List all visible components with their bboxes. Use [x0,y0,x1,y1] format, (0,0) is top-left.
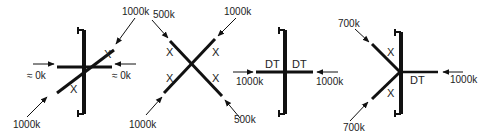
arrow-top-left [152,20,168,38]
input-label-bottom-left: 1000k [13,119,41,130]
arrow-bottom-left [146,97,162,115]
input-label-top-right: 1000k [224,6,252,17]
segment-label-upper: X [387,46,395,58]
segment-label-top-left: X [166,46,174,58]
arrow-bottom-left [27,97,47,117]
diagonal-segment-upper [372,44,400,72]
diagram-stage: 1000k 1000k ≈ 0k ≈ 0k X X 500k 1000k 100… [0,0,488,136]
input-label-bottom-left: 1000k [129,119,157,130]
input-label-left: 1000k [236,76,264,87]
segment-label-right: DT [292,58,307,70]
input-label-bottom-right: 500k [234,114,257,125]
panel-4: 700k 700k 1000k X X DT [338,18,478,133]
segment-label-bottom-left: X [166,72,174,84]
segment-label-left: DT [265,58,280,70]
arrow-top-left [355,29,369,42]
segment-label-upper: X [104,48,112,60]
arrow-top-right [116,18,135,44]
panel-1: 1000k 1000k ≈ 0k ≈ 0k X X [13,6,150,130]
input-label-right: ≈ 0k [112,70,132,81]
segment-label-lower: X [70,83,78,95]
panel-2: 500k 1000k 1000k 500k X X X X [129,6,257,130]
diagonal-segment-lower [372,72,400,99]
segment-label-lower: X [387,87,395,99]
segment-label-bottom-right: X [212,72,220,84]
input-label-right: 1000k [450,74,478,85]
panel-3: 1000k 1000k DT DT [233,27,344,117]
segment-label-right: DT [410,74,425,86]
arrow-top-right [218,18,236,36]
input-label-bottom-left: 700k [343,122,366,133]
arrow-bottom-left [350,102,368,121]
diagram-canvas: 1000k 1000k ≈ 0k ≈ 0k X X 500k 1000k 100… [0,0,488,136]
input-label-right: 1000k [316,76,344,87]
input-label-top-left: 500k [153,9,176,20]
input-label-left: ≈ 0k [27,70,47,81]
input-label-top-left: 700k [338,18,361,29]
input-label-top-right: 1000k [122,6,150,17]
segment-label-top-right: X [212,46,220,58]
